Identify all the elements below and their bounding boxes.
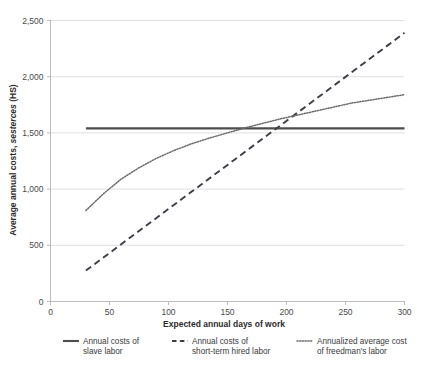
legend-label-1-line2: short-term hired labor	[192, 347, 271, 356]
chart-legend: Annual costs ofslave laborAnnual costs o…	[63, 337, 407, 356]
x-tick-label: 250	[338, 307, 352, 317]
x-tick-label: 300	[397, 307, 411, 317]
x-tick-label: 50	[105, 307, 115, 317]
y-axis-title: Average annual costs, sesterces (HS)	[8, 84, 18, 236]
legend-label-0: Annual costs of	[83, 337, 140, 346]
x-axis-title: Expected annual days of work	[163, 319, 285, 329]
legend-label-2-line2: of freedman's labor	[317, 347, 387, 356]
legend-label-1: Annual costs of	[192, 337, 249, 346]
y-tick-label: 2,500	[22, 16, 44, 26]
x-tick-label: 150	[220, 307, 234, 317]
y-tick-label: 1,500	[22, 128, 44, 138]
y-tick-label: 500	[29, 240, 43, 250]
x-tick-label: 200	[279, 307, 293, 317]
legend-label-2: Annualized average cost	[317, 337, 407, 346]
chart-figure: 050100150200250300 05001,0001,5002,0002,…	[0, 0, 421, 368]
y-tick-label: 0	[39, 297, 44, 307]
legend-label-0-line2: slave labor	[83, 347, 123, 356]
x-tick-label: 0	[48, 307, 53, 317]
y-tick-label: 1,000	[22, 184, 44, 194]
y-tick-label: 2,000	[22, 72, 44, 82]
x-tick-label: 100	[161, 307, 175, 317]
chart-background	[0, 0, 421, 368]
